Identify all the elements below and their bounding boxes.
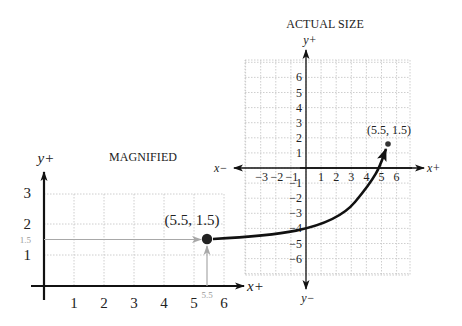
y-tick-label: 2 — [296, 131, 302, 145]
x-tick-label: 5 — [190, 295, 198, 311]
magnified-point — [202, 234, 212, 244]
magnified-point-label: (5.5, 1.5) — [165, 212, 220, 229]
y-tick-label: 6 — [296, 70, 302, 84]
actual-y-pos-label: y+ — [302, 33, 316, 47]
y-tick-label: −5 — [289, 237, 302, 251]
coordinate-diagram: ACTUAL SIZE y+ y− x+ x− 123456−3−2−1 123… — [0, 0, 462, 326]
x-tick-label: 2 — [100, 295, 108, 311]
y-tick-label: 1 — [24, 247, 32, 263]
y-tick-label: 3 — [296, 116, 302, 130]
magnified-x-label: x+ — [246, 278, 264, 294]
y-tick-label: 3 — [24, 185, 32, 201]
y-tick-label: −3 — [289, 206, 302, 220]
x-tick-label: 2 — [333, 170, 339, 184]
guide-y-value-label: 1.5 — [20, 235, 32, 245]
y-tick-label: 1 — [296, 146, 302, 160]
x-tick-label: 3 — [348, 170, 354, 184]
x-tick-label: −2 — [270, 170, 283, 184]
actual-x-pos-label: x+ — [426, 161, 440, 175]
x-tick-label: 6 — [394, 170, 400, 184]
x-tick-label: 4 — [363, 170, 369, 184]
x-tick-label: 5 — [379, 170, 385, 184]
actual-size-title: ACTUAL SIZE — [286, 17, 364, 31]
guide-x-value-label: 5.5 — [201, 290, 213, 300]
actual-point-label: (5.5, 1.5) — [367, 123, 411, 137]
y-tick-label: −2 — [289, 191, 302, 205]
y-tick-label: −6 — [289, 252, 302, 266]
y-tick-label: 4 — [296, 101, 302, 115]
actual-y-neg-label: y− — [300, 291, 314, 305]
x-tick-label: 4 — [160, 295, 168, 311]
y-tick-label: −1 — [289, 176, 302, 190]
magnified-title: MAGNIFIED — [109, 150, 177, 164]
y-tick-label: 5 — [296, 86, 302, 100]
actual-point — [385, 141, 391, 147]
x-tick-label: 1 — [70, 295, 78, 311]
magnified-y-tick-labels: 123 — [24, 185, 32, 263]
x-tick-label: −3 — [255, 170, 268, 184]
actual-x-neg-label: x− — [213, 161, 227, 175]
x-tick-label: 3 — [130, 295, 138, 311]
actual-size-graph: ACTUAL SIZE y+ y− x+ x− 123456−3−2−1 123… — [213, 17, 440, 305]
y-tick-label: −4 — [289, 221, 302, 235]
x-tick-label: 6 — [220, 295, 228, 311]
x-tick-label: 1 — [318, 170, 324, 184]
magnified-y-label: y+ — [36, 150, 55, 166]
y-tick-label: 2 — [24, 216, 32, 232]
